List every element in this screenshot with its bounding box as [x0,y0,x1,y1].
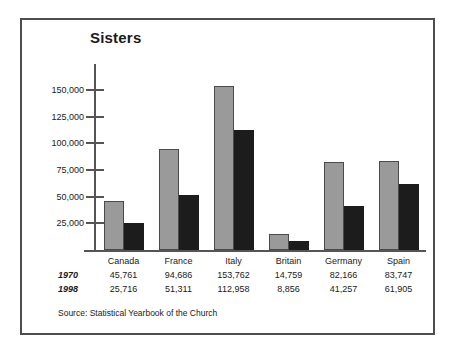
table-cell: 153,762 [217,270,250,280]
table-cell: 8,856 [277,284,300,294]
table-cell: 25,716 [110,284,138,294]
bar-1998-spain [399,184,419,250]
x-axis-label-britain: Britain [276,256,302,266]
x-axis-label-france: France [164,256,192,266]
table-cell: 83,747 [385,270,413,280]
bar-1970-britain [269,234,289,250]
table-cell: 51,311 [165,284,192,294]
bar-1970-france [159,149,179,250]
bar-1998-britain [289,241,309,250]
x-axis-label-spain: Spain [387,256,410,266]
bar-1998-germany [344,206,364,250]
y-axis-tick [86,169,104,171]
source-note: Source: Statistical Yearbook of the Chur… [58,308,217,318]
x-axis-label-germany: Germany [325,256,362,266]
table-row-year-1998: 1998 [58,284,102,294]
y-axis-tick [86,89,104,91]
bar-1998-france [179,195,199,250]
x-axis-label-italy: Italy [225,256,242,266]
table-cell: 94,686 [165,270,193,280]
chart-figure: Sisters 25,00050,00075,000100,000125,000… [20,18,435,335]
bar-1998-italy [234,130,254,250]
table-cell: 45,761 [110,270,138,280]
y-axis-tick [86,116,104,118]
table-cell: 61,905 [385,284,413,294]
table-cell: 112,958 [218,284,250,294]
table-cell: 14,759 [275,270,303,280]
bar-1970-spain [379,161,399,250]
y-axis-tick [86,142,104,144]
bar-1970-canada [104,201,124,250]
x-axis-label-canada: Canada [108,256,140,266]
y-axis-tick [86,222,104,224]
table-row: 199825,71651,311112,9588,85641,25761,905 [22,284,437,298]
table-cell: 82,166 [330,270,358,280]
data-table: 197045,76194,686153,76214,75982,16683,74… [22,270,437,298]
table-row: 197045,76194,686153,76214,75982,16683,74… [22,270,437,284]
table-row-year-1970: 1970 [58,270,102,280]
table-cell: 41,257 [330,284,358,294]
bar-1970-germany [324,162,344,250]
bar-1970-italy [214,86,234,250]
bar-1998-canada [124,223,144,250]
y-axis-tick [86,196,104,198]
